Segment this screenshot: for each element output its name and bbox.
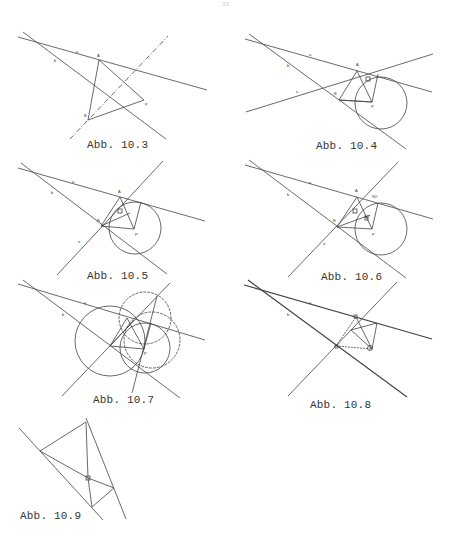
figure-10-9 [19, 418, 126, 520]
label-B-10-4: B [334, 91, 337, 96]
label-P-10-4: P [371, 104, 374, 109]
label-P-10-3: P [145, 102, 148, 107]
label-A-10-6: A [355, 188, 358, 193]
label-b-10-3: b [54, 58, 57, 63]
figure-10-6 [245, 160, 433, 278]
label-P-10-5: P [135, 232, 138, 237]
label-b-10-8: b [287, 312, 290, 317]
caption-10-8: Abb. 10.8 [310, 399, 371, 411]
label-c-10-5: a [78, 239, 81, 244]
figure-10-8 [244, 280, 432, 397]
label-angle2-10-6: 90° [364, 214, 370, 219]
label-c-10-6: a' [323, 241, 326, 246]
caption-10-9: Abb. 10.9 [20, 510, 81, 522]
figure-10-3 [18, 32, 207, 139]
label-a-10-5: a [72, 179, 75, 184]
label-B-10-5: B [97, 218, 100, 223]
label-b-10-7: b [62, 312, 65, 317]
label-A-10-5: A [118, 189, 121, 194]
figure-canvas: a b A B P a b a A B P a b a A B P a b a'… [0, 0, 461, 548]
label-A-10-3: A [97, 53, 100, 58]
label-B-10-3: B [84, 113, 87, 118]
label-b-10-6: b [287, 192, 290, 197]
figure-10-5 [18, 161, 205, 275]
label-A-10-4: A [356, 62, 359, 67]
label-c-10-4: a [296, 89, 299, 94]
figure-10-4 [245, 34, 433, 149]
caption-10-5: Abb. 10.5 [87, 270, 148, 282]
label-angle1-10-6: 90° [372, 194, 378, 199]
caption-10-7: Abb. 10.7 [93, 394, 154, 406]
label-a-10-4: a [309, 52, 312, 57]
figure-10-7 [18, 280, 205, 398]
label-b-10-5: b [51, 190, 54, 195]
label-B-10-6: B [333, 218, 336, 223]
label-P-10-7: P [144, 351, 147, 356]
caption-10-3: Abb. 10.3 [87, 139, 148, 151]
label-P-10-6: P [372, 232, 375, 237]
label-a-10-3: a [76, 49, 79, 54]
caption-10-6: Abb. 10.6 [321, 271, 382, 283]
caption-10-4: Abb. 10.4 [316, 140, 377, 152]
